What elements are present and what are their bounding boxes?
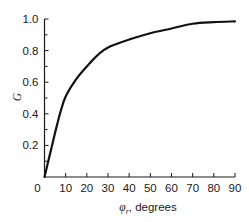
x-tick-label: 50 bbox=[144, 182, 157, 194]
x-tick-label: 90 bbox=[229, 182, 242, 194]
y-tick-label: 0.6 bbox=[23, 76, 39, 88]
data-line-G bbox=[45, 21, 236, 177]
y-tick-label: 0.4 bbox=[23, 108, 40, 120]
x-tick-label: 10 bbox=[59, 182, 72, 194]
y-axis-label: G bbox=[11, 92, 23, 101]
y-tick-label: 1.0 bbox=[23, 13, 39, 25]
y-tick-label: 0.8 bbox=[23, 45, 39, 57]
chart: 0.20.40.60.81.0 0102030405060708090 G φr… bbox=[0, 0, 249, 222]
x-tick-label: 0 bbox=[34, 182, 40, 194]
x-tick-label: 30 bbox=[102, 182, 115, 194]
x-tick-label: 70 bbox=[186, 182, 199, 194]
x-tick-label: 80 bbox=[207, 182, 220, 194]
x-tick-label: 60 bbox=[165, 182, 178, 194]
y-tick-label: 0.2 bbox=[23, 139, 39, 151]
x-axis-ticks: 0102030405060708090 bbox=[34, 173, 241, 194]
x-tick-label: 40 bbox=[123, 182, 136, 194]
x-tick-label: 20 bbox=[80, 182, 93, 194]
x-axis-label-unit: , degrees bbox=[129, 201, 177, 213]
axes bbox=[45, 19, 236, 177]
x-axis-label: φr, degrees bbox=[119, 201, 177, 216]
